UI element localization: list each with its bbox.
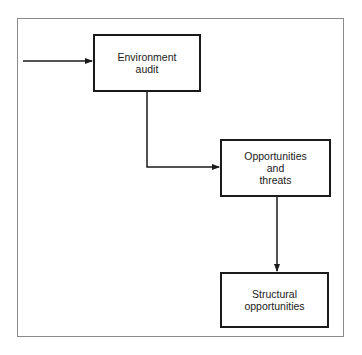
node-environment-audit: Environment audit [93,34,201,92]
node-label: Opportunities and threats [244,150,306,186]
node-label: Environment audit [118,51,177,75]
node-label: Structural opportunities [244,288,304,312]
node-opportunities-threats: Opportunities and threats [220,139,331,197]
node-structural-opportunities: Structural opportunities [220,272,329,328]
audit-to-opportunities-arrow [147,91,219,167]
